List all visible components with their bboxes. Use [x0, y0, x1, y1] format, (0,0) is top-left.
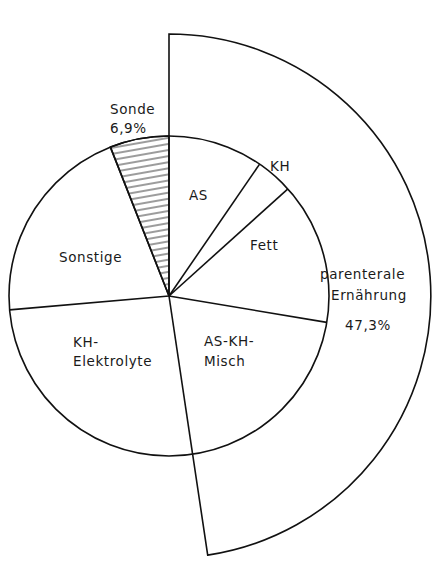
label-kh-elektrolyte-2: Elektrolyte: [73, 353, 152, 369]
label-as-kh-misch-2: Misch: [204, 353, 245, 369]
pie-chart: Sonde 6,9% AS KH Fett Sonstige KH- Elekt…: [0, 0, 436, 582]
label-fett: Fett: [250, 237, 278, 253]
label-parenteral-1: parenterale: [320, 266, 405, 282]
label-sonde-value: 6,9%: [110, 120, 147, 136]
label-parenteral-value: 47,3%: [345, 317, 391, 333]
label-as-kh-misch-1: AS-KH-: [204, 333, 254, 349]
label-kh-elektrolyte-1: KH-: [73, 334, 99, 350]
label-as: AS: [189, 187, 208, 203]
label-sonde: Sonde: [110, 101, 155, 117]
label-parenteral-2: Ernährung: [331, 287, 407, 303]
label-sonstige: Sonstige: [59, 249, 122, 265]
label-kh: KH: [270, 158, 290, 174]
